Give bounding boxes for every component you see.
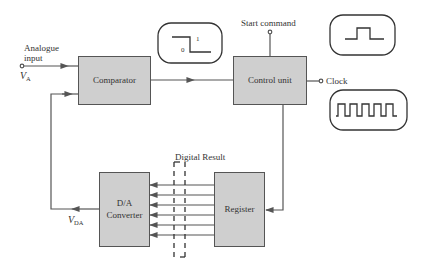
clock-label: Clock bbox=[326, 77, 348, 86]
register-block: Register bbox=[214, 172, 265, 247]
analogue-input-label-line1: Analogue bbox=[24, 44, 59, 53]
step-low-label: 0 bbox=[181, 47, 185, 54]
comparator-block: Comparator bbox=[78, 56, 151, 105]
step-waveform-inset bbox=[158, 23, 222, 63]
start-command-terminal bbox=[268, 30, 272, 34]
digital-result-bracket bbox=[174, 162, 185, 257]
control-unit-label: Control unit bbox=[248, 75, 292, 87]
comparator-label: Comparator bbox=[93, 75, 136, 87]
dac-label-line1: D/A bbox=[117, 198, 133, 210]
step-high-label: 1 bbox=[196, 36, 200, 43]
digital-result-label: Digital Result bbox=[175, 153, 225, 162]
dac-label-line2: Converter bbox=[107, 210, 143, 222]
analogue-input-terminal bbox=[20, 64, 24, 68]
vda-label: VDA bbox=[68, 215, 84, 227]
va-label: VA bbox=[20, 71, 31, 83]
clock-train-inset bbox=[330, 90, 407, 130]
analogue-input-label-line2: input bbox=[24, 54, 43, 63]
control-unit-block: Control unit bbox=[233, 56, 307, 105]
control-to-register-wire bbox=[270, 104, 283, 210]
dac-block: D/A Converter bbox=[99, 172, 150, 247]
register-label: Register bbox=[225, 204, 255, 216]
clock-terminal bbox=[319, 79, 323, 83]
start-command-label: Start command bbox=[241, 19, 296, 28]
feedback-wire bbox=[51, 94, 72, 209]
start-pulse-inset bbox=[330, 15, 395, 55]
